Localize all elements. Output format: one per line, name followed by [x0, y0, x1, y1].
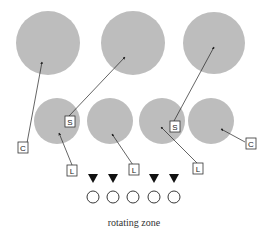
svg-text:C: C	[248, 140, 254, 149]
circle-marker-1	[87, 191, 99, 203]
label-s2: S	[170, 121, 180, 132]
disc-bottom-2	[87, 98, 133, 144]
svg-text:L: L	[132, 166, 137, 175]
triangle-marker-2	[108, 174, 118, 183]
label-l2: L	[129, 164, 139, 175]
label-s1: S	[65, 116, 75, 127]
label-c1: C	[18, 142, 28, 153]
svg-text:C: C	[20, 144, 26, 153]
circle-marker-2	[107, 191, 119, 203]
disc-top-middle	[101, 11, 165, 75]
triangle-marker-4	[169, 174, 179, 183]
svg-text:L: L	[196, 165, 201, 174]
triangle-marker-1	[88, 174, 98, 183]
label-c2: C	[246, 138, 256, 149]
svg-text:S: S	[67, 118, 72, 127]
disc-bottom-4	[188, 98, 234, 144]
rotating-zone-diagram: C S L L S L C rotating zone	[0, 0, 269, 236]
svg-text:L: L	[70, 167, 75, 176]
circle-marker-4	[148, 191, 160, 203]
triangle-marker-3	[149, 174, 159, 183]
svg-text:S: S	[172, 123, 177, 132]
circle-markers	[87, 191, 180, 203]
caption: rotating zone	[108, 217, 161, 228]
disc-top-right	[183, 12, 245, 74]
label-l3: L	[193, 163, 203, 174]
circle-marker-3	[127, 191, 139, 203]
disc-top-left	[16, 11, 80, 75]
circle-marker-5	[168, 191, 180, 203]
label-l1: L	[67, 165, 77, 176]
